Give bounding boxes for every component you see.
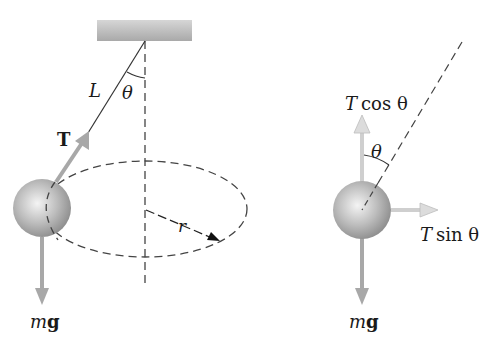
ceiling-support [97, 20, 192, 41]
tension-vertical-component-arrow [354, 115, 370, 182]
tension-horizontal-component-arrow [391, 203, 438, 217]
angle-label: θ [122, 82, 133, 103]
weight-arrow-right [355, 238, 369, 305]
right-figure: Tcos θ θ Tsin θ mg [333, 42, 479, 332]
angle-arc [127, 72, 145, 78]
weight-label: mg [30, 311, 60, 332]
length-label: L [88, 80, 101, 101]
angle-label-right: θ [371, 141, 382, 162]
weight-label-right: mg [349, 311, 379, 332]
left-figure: L θ T r mg [13, 20, 247, 332]
tension-vertical-label: Tcos θ [345, 93, 408, 114]
weight-arrow [35, 237, 49, 305]
tension-horizontal-label: Tsin θ [420, 224, 479, 245]
radius-label: r [178, 216, 187, 236]
pendulum-bob [13, 179, 71, 237]
tension-label: T [57, 129, 71, 150]
conical-pendulum-diagram: L θ T r mg T [0, 0, 503, 350]
